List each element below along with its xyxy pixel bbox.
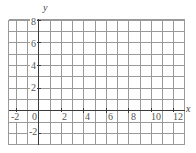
x-axis-label: x [186,104,190,114]
y-tick-label-neg2: -2 [28,127,38,137]
x-tick-label-6: 6 [107,112,114,122]
y-tick-label-2: 2 [30,83,37,93]
y-tick-label-8: 8 [30,17,37,27]
x-tick-label-4: 4 [84,112,91,122]
coordinate-grid-chart: y x 8 6 4 2 -2 0 -2 2 4 6 8 10 12 [0,0,196,153]
x-tick-label-10: 10 [150,112,162,122]
x-tick-label-neg2: -2 [10,112,20,122]
y-tick-label-4: 4 [30,61,37,71]
x-tick-label-8: 8 [130,112,137,122]
x-tick-label-12: 12 [172,112,184,122]
origin-label: 0 [31,112,38,122]
x-tick-label-2: 2 [61,112,68,122]
y-tick-label-6: 6 [30,39,37,49]
y-axis-label: y [43,3,47,13]
